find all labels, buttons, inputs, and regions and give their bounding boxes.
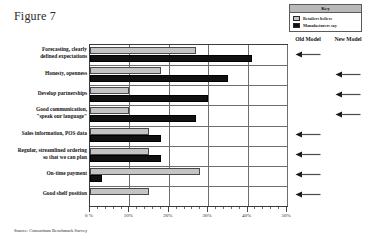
arrow-old-model-icon [295,171,321,178]
bar-group [90,45,287,65]
bar-manufacturers-say [90,95,208,102]
bar-manufacturers-say [90,135,161,142]
bar-manufacturers-say [90,55,252,62]
bar-retailers-believe [90,188,149,195]
category-label-line: Regular, streamlined ordering [18,147,87,154]
x-tick-major [207,207,208,212]
arrow-old-model-icon [295,151,321,158]
bar-group [90,65,287,85]
column-header-old-model: Old Model [295,36,321,42]
bar-manufacturers-say [90,155,161,162]
chart-container: Forecasting, clearlydefined expectations… [0,0,371,241]
arrow-new-model-icon [335,71,361,78]
category-label: Sales information, POS data [22,130,87,137]
x-tick-label: 50% [281,213,290,218]
x-tick-label: 30% [203,213,212,218]
column-header-new-model: New Model [334,36,361,42]
x-tick-label: 40% [242,213,251,218]
bar-manufacturers-say [90,75,228,82]
arrow-old-model-icon [295,51,321,58]
x-tick-major [286,207,287,212]
x-tick-minor [113,207,114,209]
x-tick-minor [176,207,177,209]
arrow-old-model-icon [295,131,321,138]
x-tick-minor [262,207,263,209]
source-note: Source: Consortium Benchmark Survey [14,228,87,233]
bar-retailers-believe [90,168,200,175]
bar-group [90,85,287,105]
x-tick-label: 0 % [85,213,93,218]
bar-manufacturers-say [90,115,196,122]
x-tick-minor [136,207,137,209]
x-tick-minor [160,207,161,209]
x-tick-major [128,207,129,212]
x-tick-minor [97,207,98,209]
gridline-50 [287,45,288,206]
bar-group [90,166,287,186]
category-label-line: Develop partnerships [38,90,87,97]
category-label-line: Good shelf position [43,190,87,197]
x-tick-minor [191,207,192,209]
arrow-new-model-icon [335,91,361,98]
x-axis [89,207,288,212]
category-label: Develop partnerships [38,90,87,97]
category-label-line: Sales information, POS data [22,130,87,137]
bar-retailers-believe [90,148,149,155]
category-label: Regular, streamlined orderingso that we … [18,147,87,161]
x-tick-major [168,207,169,212]
bar-retailers-believe [90,47,196,54]
x-tick-label: 20% [163,213,172,218]
bar-retailers-believe [90,67,161,74]
bar-group [90,186,287,206]
category-label: Good shelf position [43,190,87,197]
x-tick-minor [152,207,153,209]
category-label-line: "speak our language" [36,113,87,120]
bar-manufacturers-say [90,175,102,182]
arrow-old-model-icon [295,191,321,198]
plot-area [89,44,288,207]
bar-group [90,146,287,166]
category-label-line: Honesty, openness [45,70,87,77]
category-label-line: so that we can plan [18,154,87,161]
x-tick-minor [105,207,106,209]
x-tick-minor [239,207,240,209]
x-tick-minor [254,207,255,209]
category-label-line: defined expectations [40,53,87,60]
category-label-line: Forecasting, clearly [40,46,87,53]
x-tick-minor [215,207,216,209]
x-tick-minor [223,207,224,209]
x-tick-major [89,207,90,212]
category-label-line: On-time payment [46,170,87,177]
category-label: Good communication,"speak our language" [36,106,87,120]
x-tick-minor [199,207,200,209]
arrow-new-model-icon [335,111,361,118]
bar-group [90,126,287,146]
x-tick-minor [270,207,271,209]
x-tick-minor [121,207,122,209]
category-label: On-time payment [46,170,87,177]
x-tick-major [247,207,248,212]
category-label: Forecasting, clearlydefined expectations [40,46,87,60]
category-label: Honesty, openness [45,70,87,77]
x-tick-minor [278,207,279,209]
x-tick-minor [231,207,232,209]
x-tick-label: 10% [124,213,133,218]
category-label-line: Good communication, [36,106,87,113]
bar-retailers-believe [90,128,149,135]
bar-retailers-believe [90,107,129,114]
x-tick-minor [144,207,145,209]
bar-retailers-believe [90,87,129,94]
x-tick-minor [184,207,185,209]
bar-group [90,105,287,125]
